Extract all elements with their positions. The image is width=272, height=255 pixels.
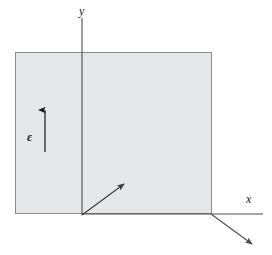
field-vector-label: ε xyxy=(27,130,32,144)
figure-container: y x ε xyxy=(0,0,272,255)
physics-diagram: y x ε xyxy=(0,0,272,255)
x-axis-label: x xyxy=(245,192,252,206)
z-axis-line xyxy=(211,214,252,244)
y-axis-label: y xyxy=(78,4,85,18)
